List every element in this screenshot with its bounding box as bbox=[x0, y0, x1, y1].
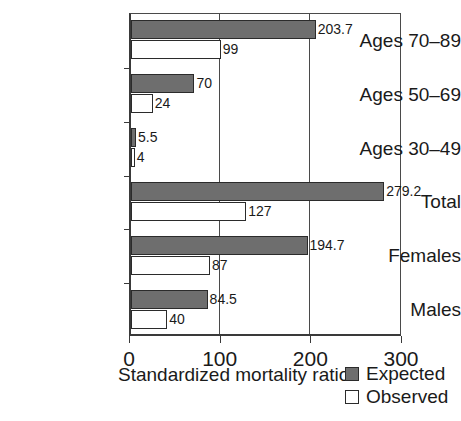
value-label: 24 bbox=[155, 96, 171, 110]
bar-observed-ages-70-89 bbox=[131, 40, 221, 59]
category-label: Females bbox=[339, 246, 461, 265]
y-axis-tick bbox=[124, 122, 131, 123]
y-axis-tick bbox=[124, 68, 131, 69]
x-axis-title: Standardized mortality ratio bbox=[118, 365, 349, 384]
x-axis-tick bbox=[220, 336, 221, 343]
category-label: Males bbox=[339, 300, 461, 319]
legend-swatch-expected-icon bbox=[345, 367, 359, 381]
gridline-100 bbox=[219, 14, 220, 334]
bar-observed-total bbox=[131, 202, 246, 221]
bar-expected-ages-50-69 bbox=[131, 74, 194, 93]
legend-item-expected: Expected bbox=[345, 362, 448, 385]
bar-observed-males bbox=[131, 310, 167, 329]
value-label: 279.2 bbox=[386, 184, 421, 198]
legend-swatch-observed-icon bbox=[345, 390, 359, 404]
value-label: 87 bbox=[212, 258, 228, 272]
x-axis-tick bbox=[310, 336, 311, 343]
bar-expected-ages-70-89 bbox=[131, 20, 316, 39]
value-label: 5.5 bbox=[138, 130, 157, 144]
legend-label-observed: Observed bbox=[366, 387, 448, 406]
value-label: 40 bbox=[169, 312, 185, 326]
value-label: 203.7 bbox=[318, 22, 353, 36]
category-label: Ages 50–69 bbox=[339, 85, 461, 104]
standardized-mortality-ratio-chart: Ages 70–89203.799Ages 50–697024Ages 30–4… bbox=[0, 0, 461, 421]
value-label: 194.7 bbox=[310, 238, 345, 252]
x-axis-tick bbox=[401, 336, 402, 343]
value-label: 127 bbox=[248, 204, 271, 218]
y-axis-tick bbox=[124, 229, 131, 230]
category-label: Ages 70–89 bbox=[339, 31, 461, 50]
bar-expected-ages-30-49 bbox=[131, 128, 136, 147]
value-label: 4 bbox=[137, 150, 145, 164]
x-axis-tick bbox=[129, 336, 130, 343]
value-label: 84.5 bbox=[210, 292, 237, 306]
value-label: 70 bbox=[196, 76, 212, 90]
gridline-200 bbox=[309, 14, 310, 334]
y-axis-tick bbox=[124, 176, 131, 177]
bar-observed-females bbox=[131, 256, 210, 275]
bar-expected-males bbox=[131, 290, 208, 309]
category-label: Ages 30–49 bbox=[339, 139, 461, 158]
bar-observed-ages-30-49 bbox=[131, 148, 135, 167]
bar-expected-females bbox=[131, 236, 308, 255]
legend-item-observed: Observed bbox=[345, 385, 448, 408]
bar-observed-ages-50-69 bbox=[131, 94, 153, 113]
value-label: 99 bbox=[223, 42, 239, 56]
chart-legend: Expected Observed bbox=[345, 362, 448, 408]
plot-area bbox=[129, 13, 401, 336]
y-axis-tick bbox=[124, 283, 131, 284]
legend-label-expected: Expected bbox=[366, 364, 445, 383]
